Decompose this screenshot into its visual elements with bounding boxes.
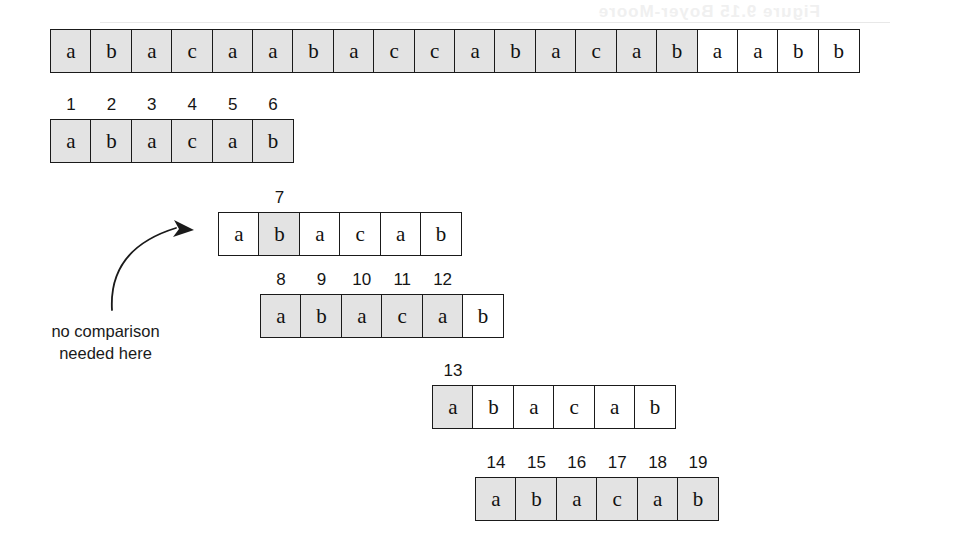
cell-wrapper: a [454,29,494,73]
character-cell-shaded: a [556,477,598,521]
comparison-index-label: 4 [171,96,213,113]
cell-wrapper: a [513,385,553,429]
character-cell-shaded: c [373,29,415,73]
character-cell-shaded: c [414,29,456,73]
cell-wrapper: b [818,29,858,73]
cell-wrapper: b [777,29,817,73]
figure-canvas: Figure 9.15 Boyer-Moore abacaabaccabacab… [0,0,965,548]
cell-wrapper: b [462,294,502,338]
cell-wrapper: a [299,212,339,256]
character-cell: a [594,385,636,429]
comparison-index-label: 2 [90,96,132,113]
cell-wrapper: b [292,29,332,73]
cell-wrapper: c [171,29,211,73]
comparison-index-label: 19 [677,454,719,471]
character-cell: a [697,29,739,73]
cell-wrapper: 13a [432,385,472,429]
comparison-index-label: 15 [515,454,557,471]
cell-wrapper: a [252,29,292,73]
character-cell-shaded: b [677,477,719,521]
cell-wrapper: b [420,212,460,256]
cell-wrapper: b [656,29,696,73]
character-cell-shaded: a [475,477,517,521]
cell-wrapper: b [634,385,674,429]
text-row: abacaabaccabacabaabb [50,29,858,73]
character-cell-shaded: b [258,212,300,256]
cell-wrapper: c [553,385,593,429]
character-cell-shaded: a [131,29,173,73]
character-cell-shaded: c [596,477,638,521]
cell-wrapper: a [594,385,634,429]
cell-wrapper: 5a [212,119,252,163]
scan-bleed-text: Figure 9.15 Boyer-Moore [120,2,820,20]
cell-wrapper: 17c [596,477,636,521]
character-cell-shaded: a [50,119,92,163]
cell-wrapper: c [575,29,615,73]
character-cell-shaded: c [171,29,213,73]
character-cell-shaded: a [454,29,496,73]
character-cell-shaded: c [171,119,213,163]
cell-wrapper: 18a [637,477,677,521]
character-cell-shaded: c [381,294,423,338]
comparison-index-label: 18 [637,454,679,471]
character-cell: b [462,294,504,338]
character-cell-shaded: a [616,29,658,73]
comparison-index-label: 10 [341,271,383,288]
cell-wrapper: 12a [422,294,462,338]
character-cell-shaded: c [575,29,617,73]
comparison-index-label: 13 [432,362,474,379]
cell-wrapper: 14a [475,477,515,521]
cell-wrapper: b [494,29,534,73]
character-cell-shaded: b [515,477,557,521]
pattern-pass-2: a7bacab [218,212,460,256]
cell-wrapper: 6b [252,119,292,163]
character-cell-shaded: a [131,119,173,163]
character-cell: b [777,29,819,73]
character-cell-shaded: b [90,29,132,73]
comparison-index-label: 9 [300,271,342,288]
comparison-index-label: 11 [381,271,423,288]
character-cell: c [339,212,381,256]
comparison-index-label: 14 [475,454,517,471]
cell-wrapper: 15b [515,477,555,521]
character-cell-shaded: a [260,294,302,338]
character-cell-shaded: b [300,294,342,338]
character-cell-shaded: b [494,29,536,73]
character-cell: a [380,212,422,256]
character-cell-shaded: a [212,119,254,163]
cell-wrapper: c [373,29,413,73]
cell-wrapper: 1a [50,119,90,163]
cell-wrapper: 9b [300,294,340,338]
cell-wrapper: 3a [131,119,171,163]
character-cell-shaded: a [535,29,577,73]
comparison-index-label: 1 [50,96,92,113]
annotation-line-1: no comparison [18,320,193,342]
cell-wrapper: 4c [171,119,211,163]
comparison-index-label: 17 [596,454,638,471]
character-cell: b [634,385,676,429]
cell-wrapper: a [737,29,777,73]
pattern-pass-1: 1a2b3a4c5a6b [50,119,292,163]
comparison-index-label: 12 [422,271,464,288]
pattern-pass-3: 8a9b10a11c12ab [260,294,502,338]
cell-wrapper: a [380,212,420,256]
cell-wrapper: 7b [258,212,298,256]
comparison-index-label: 16 [556,454,598,471]
cell-wrapper: 8a [260,294,300,338]
comparison-index-label: 5 [212,96,254,113]
cell-wrapper: c [339,212,379,256]
cell-wrapper: 11c [381,294,421,338]
cell-wrapper: 19b [677,477,717,521]
character-cell-shaded: a [341,294,383,338]
annotation-line-2: needed here [18,342,193,364]
cell-wrapper: 2b [90,119,130,163]
cell-wrapper: c [414,29,454,73]
cell-wrapper: a [616,29,656,73]
character-cell: c [553,385,595,429]
cell-wrapper: a [131,29,171,73]
character-cell-shaded: a [252,29,294,73]
character-cell-shaded: b [656,29,698,73]
character-cell-shaded: b [90,119,132,163]
comparison-index-label: 7 [258,189,300,206]
cell-wrapper: 16a [556,477,596,521]
